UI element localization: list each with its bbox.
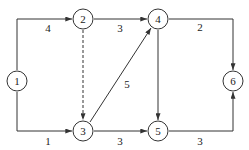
edge-label-2-4: 3 (117, 22, 123, 34)
node-3: 3 (73, 121, 93, 141)
node-label: 5 (155, 125, 161, 137)
node-5: 5 (148, 121, 168, 141)
node-label: 3 (80, 125, 86, 137)
edge-label-4-6: 2 (197, 21, 203, 33)
node-6: 6 (223, 71, 243, 91)
node-label: 1 (14, 75, 20, 87)
edge-label-3-4: 5 (124, 78, 130, 90)
edge-5-6 (169, 92, 233, 131)
node-1: 1 (7, 71, 27, 91)
node-label: 2 (80, 13, 86, 25)
edge-label-5-6: 3 (197, 135, 203, 147)
network-diagram: 4 1 3 5 3 2 3 1 2 3 4 5 6 (0, 0, 249, 150)
edge-3-4 (90, 28, 151, 122)
edge-label-3-5: 3 (117, 135, 123, 147)
edge-label-1-3: 1 (45, 135, 51, 147)
node-2: 2 (73, 9, 93, 29)
node-label: 4 (155, 13, 161, 25)
edge-label-1-2: 4 (45, 22, 51, 34)
node-4: 4 (148, 9, 168, 29)
edge-1-3 (17, 92, 72, 131)
node-label: 6 (230, 75, 236, 87)
